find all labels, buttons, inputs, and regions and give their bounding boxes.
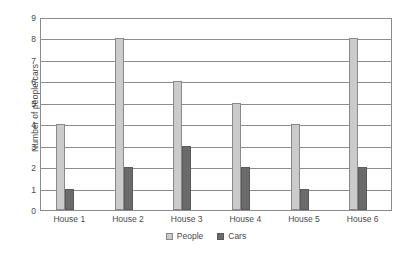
bar-group — [158, 19, 217, 210]
x-axis-tick-label: House 3 — [158, 214, 216, 224]
x-axis-tick-label: House 1 — [40, 214, 98, 224]
y-axis-tick-label: 1 — [22, 185, 36, 194]
legend-item-cars[interactable]: Cars — [217, 232, 246, 241]
bar-group — [41, 19, 100, 210]
legend-swatch-icon — [217, 233, 224, 240]
bar-chart: Number of people/cars 0123456789 House 1… — [0, 0, 412, 261]
bar-people[interactable] — [291, 124, 300, 210]
plot-area — [40, 18, 392, 211]
bar-people[interactable] — [56, 124, 65, 210]
legend-label: People — [177, 232, 203, 241]
bar-group — [334, 19, 393, 210]
x-axis-tick-label: House 4 — [216, 214, 274, 224]
chart-legend: PeopleCars — [0, 232, 412, 241]
y-axis-tick-label: 6 — [22, 78, 36, 87]
bar-people[interactable] — [232, 103, 241, 210]
bars-layer — [41, 19, 391, 210]
y-axis-tick-label: 3 — [22, 142, 36, 151]
bar-people[interactable] — [349, 38, 358, 210]
bar-people[interactable] — [173, 81, 182, 210]
legend-swatch-icon — [166, 233, 173, 240]
x-axis-tick-label: House 5 — [275, 214, 333, 224]
x-axis-tick-label: House 6 — [334, 214, 392, 224]
bar-group — [276, 19, 335, 210]
bar-group — [217, 19, 276, 210]
y-axis-tick-label: 9 — [22, 14, 36, 23]
y-axis-tick-label: 5 — [22, 100, 36, 109]
legend-label: Cars — [228, 232, 246, 241]
x-axis-tick-labels: House 1House 2House 3House 4House 5House… — [40, 214, 392, 228]
bar-cars[interactable] — [65, 189, 74, 210]
bar-cars[interactable] — [358, 167, 367, 210]
y-axis-tick-label: 0 — [22, 207, 36, 216]
bar-cars[interactable] — [241, 167, 250, 210]
bar-cars[interactable] — [124, 167, 133, 210]
y-axis-tick-label: 8 — [22, 35, 36, 44]
x-axis-tick-label: House 2 — [99, 214, 157, 224]
bar-people[interactable] — [115, 38, 124, 210]
y-axis-tick-label: 7 — [22, 57, 36, 66]
y-axis-tick-label: 2 — [22, 164, 36, 173]
bar-cars[interactable] — [182, 146, 191, 210]
y-axis-tick-label: 4 — [22, 121, 36, 130]
y-axis-tick-labels: 0123456789 — [22, 18, 36, 211]
bar-cars[interactable] — [300, 189, 309, 210]
bar-group — [100, 19, 159, 210]
legend-item-people[interactable]: People — [166, 232, 203, 241]
